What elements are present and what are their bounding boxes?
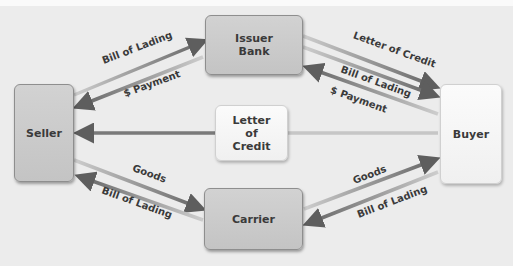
- node-buyer: Buyer: [440, 84, 502, 184]
- node-loc-line3: Credit: [233, 140, 271, 153]
- node-carrier-label: Carrier: [232, 213, 275, 226]
- node-seller: Seller: [14, 84, 74, 182]
- arrow-carrier-buyer-goods: [304, 160, 434, 209]
- node-loc-line2: of: [245, 127, 257, 140]
- node-issuer-bank-line2: Bank: [239, 45, 270, 58]
- node-carrier: Carrier: [204, 188, 303, 250]
- node-seller-label: Seller: [26, 127, 62, 140]
- node-issuer-bank-line1: Issuer: [235, 32, 273, 45]
- node-letter-of-credit: Letter of Credit: [215, 105, 288, 161]
- node-loc-line1: Letter: [233, 114, 271, 127]
- node-issuer-bank: Issuer Bank: [205, 15, 303, 75]
- arrow-buyer-carrier-bill-of-lading: [309, 172, 438, 223]
- node-buyer-label: Buyer: [453, 128, 489, 141]
